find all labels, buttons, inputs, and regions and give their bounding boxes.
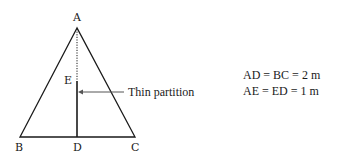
thin-partition-label: Thin partition xyxy=(128,86,194,98)
label-c: C xyxy=(131,142,139,153)
label-d: D xyxy=(73,142,82,153)
label-b: B xyxy=(15,142,23,153)
label-e: E xyxy=(64,75,72,86)
equation-ad-bc: AD = BC = 2 m xyxy=(243,69,320,81)
arrow-head-icon xyxy=(78,90,83,95)
label-a: A xyxy=(73,12,81,23)
equation-ae-ed: AE = ED = 1 m xyxy=(243,85,319,97)
